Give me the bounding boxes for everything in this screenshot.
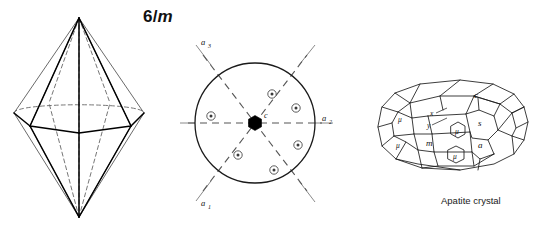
pole-marker (294, 141, 302, 149)
panel-bipyramid (0, 0, 165, 231)
apatite-crystal-svg: c x y s m a μ μ μ μ (348, 60, 540, 190)
panel-apatite-crystal: c x y s m a μ μ μ μ (348, 60, 540, 190)
crystal-face-labels: c x y s m a μ μ μ μ (396, 90, 483, 161)
svg-text:3: 3 (207, 43, 211, 49)
crystal-symmetry-figure: 6/m (0, 0, 540, 231)
face-label-m: m (426, 138, 433, 148)
pole-marker (207, 112, 215, 120)
stereogram-svg: c a 3 a 2 a 1 (170, 28, 345, 208)
crystal-caption: Apatite crystal (441, 195, 501, 206)
face-label-y: y (426, 121, 431, 130)
face-label-c: c (474, 90, 478, 100)
stereogram-poles (207, 90, 302, 174)
face-label-s: s (478, 118, 482, 128)
crystal-left-faces (378, 103, 434, 168)
pole-marker (234, 151, 242, 159)
six-fold-axis-icon (249, 116, 262, 131)
bipyramid-front-edges (14, 18, 144, 217)
face-label-mu-4: μ (396, 141, 400, 150)
face-label-x: x (429, 109, 434, 118)
pole-marker (268, 90, 276, 98)
crystal-leader-lines (432, 108, 447, 125)
svg-text:1: 1 (208, 204, 211, 210)
svg-text:a: a (201, 37, 205, 47)
svg-text:a: a (201, 198, 205, 208)
pole-marker (292, 104, 300, 112)
axis-label-a3: a 3 (201, 37, 211, 49)
pole-marker (270, 166, 278, 174)
axis-label-a1: a 1 (201, 198, 211, 210)
svg-text:a: a (322, 113, 326, 123)
svg-text:2: 2 (329, 119, 332, 125)
bipyramid-svg (0, 0, 165, 231)
crystal-right-faces (466, 98, 528, 170)
face-label-mu-3: μ (398, 115, 402, 124)
panel-stereogram: c a 3 a 2 a 1 (170, 28, 345, 208)
face-label-mu-2: μ (453, 152, 457, 161)
face-label-mu-1: μ (455, 127, 459, 136)
stereogram-center-label: c (264, 111, 268, 120)
crystal-top-faces (382, 80, 524, 113)
face-label-a: a (478, 140, 483, 150)
